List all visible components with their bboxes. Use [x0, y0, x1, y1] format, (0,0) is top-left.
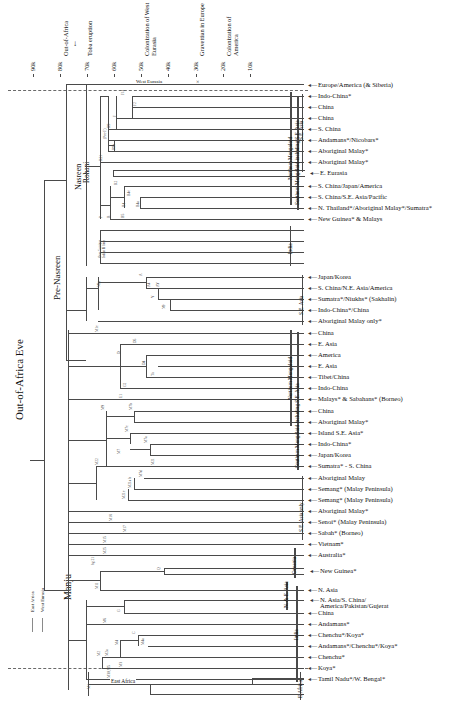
node-label: B: [108, 216, 112, 218]
leaf-branch-n-thailand: [140, 208, 304, 209]
tree-branch-b4-stem: [110, 197, 124, 198]
leaf-arrow-icon: ◂—: [308, 216, 317, 222]
leaf-arrow-icon: ◂—: [310, 597, 319, 603]
node-label: M6: [104, 618, 108, 623]
leaf-label: Malays* & Sabahans* (Borneo): [318, 395, 403, 403]
tree-branch-m7b-stem: [106, 416, 134, 417]
tree-branch-pre-nasreen: [44, 180, 66, 181]
node-label: E1: [120, 394, 124, 398]
node-label: B4c: [128, 190, 132, 196]
leaf-arrow-icon: ◂—: [308, 330, 317, 336]
axis-tick-label-20k: 20k: [220, 62, 226, 71]
leaf-branch-indian-r-2: [100, 241, 304, 242]
leaf-arrow-icon: ◂—: [308, 541, 317, 547]
leaf-label: N. Thailand*/Aboriginal Malay*/Sumatra*: [318, 204, 432, 212]
tree-branch-root: [44, 180, 45, 590]
leaf-label: China: [318, 329, 334, 337]
tree-branch-m4-v: [120, 640, 121, 657]
leaf-branch-china-m1c: [96, 333, 304, 334]
tree-branch-m22-stem: [68, 483, 96, 484]
leaf-label: China: [318, 114, 334, 122]
node-label: F: [114, 115, 118, 117]
legend-label-east-africa: East Africa: [30, 591, 35, 612]
tree-branch-m11-v: [100, 571, 101, 590]
leaf-branch-indo-china-m7a: [150, 444, 304, 445]
leaf-label: Koya*: [318, 664, 336, 672]
leaf-branch-aboriginal-malay-m18: [114, 511, 304, 512]
tree-branch-y-v: [158, 288, 159, 299]
node-label: M7c: [126, 425, 130, 432]
leaf-branch-indo-china-1: [132, 96, 304, 97]
tree-branch-b-stem: [100, 205, 110, 206]
leaf-label: Aboriginal Malay*: [318, 418, 368, 426]
tree-branch-n9-root-stem: [66, 310, 86, 311]
tree-branch-pre-nasreen-v: [66, 84, 67, 360]
leaf-arrow-icon: ◂—: [308, 148, 317, 154]
leaf-branch-andamans-chenchu-koya: [148, 646, 304, 647]
axis-tick-label-30k: 30k: [193, 62, 199, 71]
tree-branch-m3-stem: [102, 668, 124, 669]
node-label: N9: [163, 305, 167, 309]
tree-branch-p-v: [100, 166, 101, 219]
node-label: M2: [98, 651, 102, 656]
leaf-arrow-icon: ◂—: [310, 568, 319, 574]
leaf-branch-sumatra-niukhs: [158, 299, 304, 300]
leaf-branch-s-china-1: [108, 129, 304, 130]
node-label: G: [118, 609, 122, 612]
tree-branch-india-stem: [68, 640, 86, 641]
leaf-label: Sumatra* - S. China: [318, 462, 371, 470]
tree-branch-d-stem: [68, 366, 120, 367]
toba-arrow-icon: ↓: [73, 40, 77, 48]
leaf-label: Chenchu*: [318, 653, 345, 661]
leaf-label: Aboriginal Malay only*: [318, 317, 382, 325]
bracket-label-india-upper: India: [288, 243, 293, 254]
node-label: D: [118, 351, 122, 354]
leaf-arrow-icon: ◂—: [308, 519, 317, 525]
leaf-arrow-icon: ◂—: [308, 93, 317, 99]
leaf-label: N. Asia: [318, 586, 338, 594]
event-label-gravettian-europe: Gravettian in Europe: [198, 0, 205, 56]
leaf-label: Indo-China: [318, 384, 348, 392]
leaf-arrow-icon: ◂—: [308, 296, 317, 302]
tree-branch-g-stem: [86, 606, 124, 607]
tree-branch-m7a-stem: [130, 449, 150, 450]
phylogenetic-tree-figure: 90k 80k 70k 60k 50k 40k 30k 20k 10k Out-…: [0, 0, 467, 705]
tree-branch-n9a-stem: [86, 288, 98, 289]
bracket-label-e-africa: E.Africa: [298, 680, 303, 698]
leaf-arrow-icon: ◂—: [308, 632, 317, 638]
leaf-arrow-icon: ◂—: [308, 352, 317, 358]
leaf-branch-aboriginal-malay-1: [108, 151, 304, 152]
leaf-branch-aboriginal-malay-only: [98, 321, 304, 322]
leaf-arrow-icon: ◂—: [308, 137, 317, 143]
legend-label-west-eurasia: West Eurasia: [40, 588, 45, 612]
leaf-label: Sabah* (Borneo): [318, 529, 363, 537]
leaf-arrow-icon: ◂—: [308, 274, 317, 280]
leaf-branch-tamil-nadu-w-bengal: [112, 679, 304, 680]
leaf-arrow-icon: ◂—: [308, 318, 317, 324]
node-label: M4: [116, 640, 120, 645]
node-label: D4: [143, 361, 147, 365]
tree-branch-m25-stem: [68, 544, 108, 545]
leaf-arrow-icon: ◂—: [308, 104, 317, 110]
leaf-branch-n-asia-s-china-america: [124, 600, 304, 601]
tree-branch-c-v: [138, 635, 139, 646]
leaf-label: S. China/N.E. Asia/America: [318, 284, 393, 292]
tree-branch-e-eurasia-v: [113, 170, 114, 176]
leaf-arrow-icon: ◂—: [308, 341, 317, 347]
node-label: B4a: [137, 201, 141, 207]
leaf-arrow-icon: ◂—: [308, 205, 317, 211]
leaf-branch-island-se-asia: [130, 433, 304, 434]
axis-tick-label-70k: 70k: [84, 62, 90, 71]
tree-branch-a-stem: [98, 282, 146, 283]
bracket-label-se-asia-only: S.E. Asia only: [299, 502, 304, 532]
tree-branch-nasreen-to-n9: [66, 360, 86, 361]
leaf-label: New Guinea* & Malays: [318, 215, 382, 223]
leaf-branch-aboriginal-malay-m7d: [144, 478, 304, 479]
leaf-label: Tibet/China: [318, 373, 349, 381]
event-label-toba-eruption: Toba eruption: [86, 0, 93, 56]
leaf-arrow-icon: ◂—: [308, 676, 317, 682]
bracket-label-oceania: Oceania: [292, 557, 297, 574]
leaf-arrow-icon: ◂—: [308, 126, 317, 132]
tree-branch-m17-stem: [68, 522, 128, 523]
leaf-label: America: [318, 351, 341, 359]
